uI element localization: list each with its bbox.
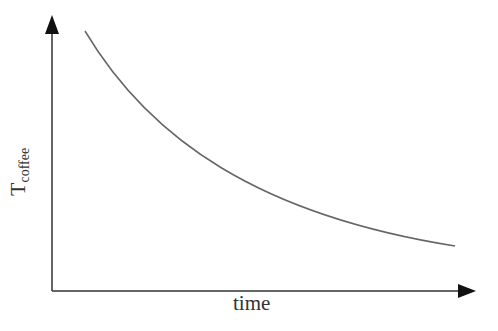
- y-axis-label-main: T: [5, 183, 30, 196]
- x-axis-label: time: [233, 291, 270, 316]
- x-axis-arrow-icon: [458, 284, 476, 298]
- y-axis-label-subscript: coffee: [17, 148, 32, 183]
- y-axis-arrow-icon: [45, 15, 59, 34]
- y-axis-label: Tcoffee: [5, 148, 33, 196]
- decay-curve: [85, 31, 455, 246]
- chart-canvas: [0, 0, 498, 331]
